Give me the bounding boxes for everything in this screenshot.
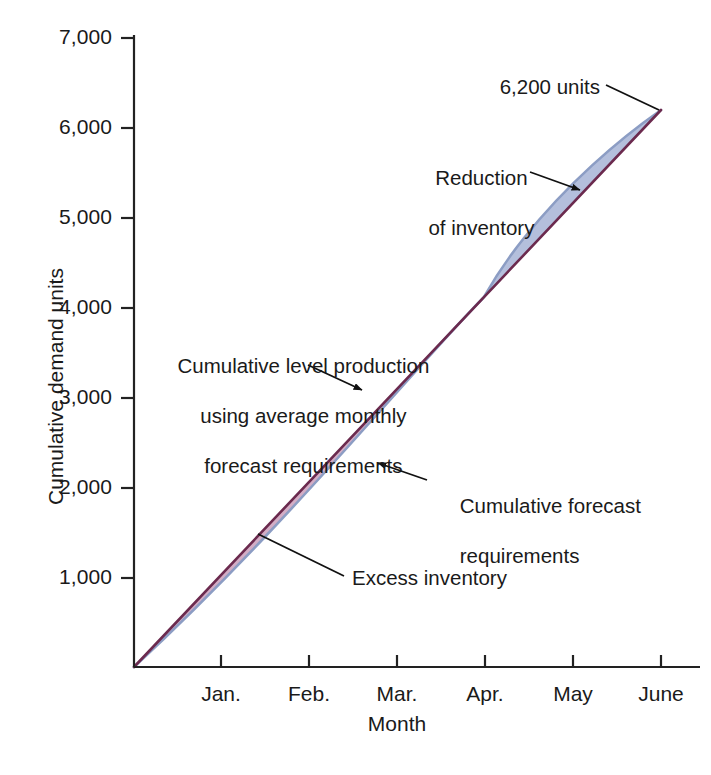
annotation-excess-inventory: Excess inventory xyxy=(352,565,582,590)
annotation-level-production: Cumulative level production using averag… xyxy=(142,328,442,503)
y-axis-title: Cumulative demand units xyxy=(44,268,68,505)
annotation-reduction-line2: of inventory xyxy=(428,216,534,239)
annotation-level-line1: Cumulative level production xyxy=(177,354,429,377)
x-axis-title: Month xyxy=(342,712,452,737)
y-tick-label-1000: 1,000 xyxy=(22,565,112,590)
leader-line-excess-inventory xyxy=(258,534,344,576)
chart-figure: 7,000 6,000 5,000 4,000 3,000 2,000 1,00… xyxy=(0,0,711,775)
x-axis-ticks xyxy=(221,655,661,667)
y-tick-label-6000: 6,000 xyxy=(22,115,112,140)
x-tick-label-june: June xyxy=(606,682,711,707)
annotation-level-line3: forecast requirements xyxy=(204,454,402,477)
annotation-peak-value: 6,200 units xyxy=(400,74,600,99)
leader-line-peak-value xyxy=(606,85,659,110)
annotation-level-line2: using average monthly xyxy=(200,404,406,427)
y-tick-label-5000: 5,000 xyxy=(22,205,112,230)
annotation-reduction-line1: Reduction xyxy=(435,166,527,189)
annotation-reduction-of-inventory: Reduction of inventory xyxy=(400,140,540,265)
y-tick-label-7000: 7,000 xyxy=(22,25,112,50)
annotation-forecast-line1: Cumulative forecast xyxy=(460,494,641,517)
y-axis-ticks xyxy=(121,38,134,578)
annotation-forecast-line2: requirements xyxy=(460,544,580,567)
